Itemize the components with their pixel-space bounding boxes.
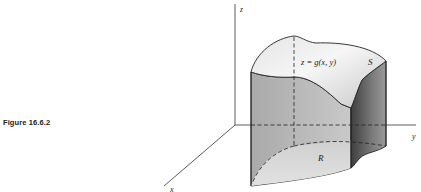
x-axis-label: x: [169, 185, 174, 192]
y-axis-label: y: [411, 132, 416, 141]
region-r-label: R: [317, 153, 324, 163]
surface-s-label: S: [368, 57, 373, 67]
x-axis: [164, 125, 235, 186]
surface-equation-label: z = g(x, y): [300, 57, 336, 67]
z-axis-label: z: [239, 5, 243, 14]
figure-diagram: z y x z = g(x, y) S R: [0, 0, 421, 192]
